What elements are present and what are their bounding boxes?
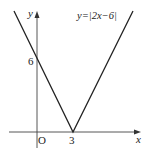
x-tick-3: 3 bbox=[69, 135, 75, 146]
y-axis-label: y bbox=[28, 8, 33, 19]
origin-label: O bbox=[38, 135, 46, 146]
function-label: y=|2x−6| bbox=[77, 11, 117, 22]
function-curve bbox=[14, 11, 133, 132]
graph-canvas bbox=[0, 0, 151, 156]
x-axis-label: x bbox=[136, 134, 141, 145]
y-tick-6: 6 bbox=[28, 56, 34, 67]
y-axis-arrow-icon bbox=[35, 11, 40, 18]
